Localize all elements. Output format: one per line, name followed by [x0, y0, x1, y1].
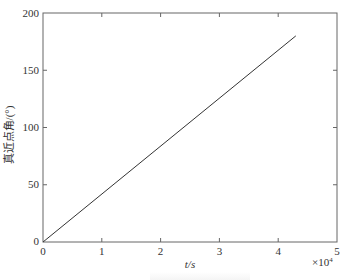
x-tick-label: 3	[217, 245, 223, 257]
figure-caption-cropped	[150, 272, 250, 280]
x-tick-label: 1	[99, 245, 105, 257]
y-tick-label: 0	[34, 235, 40, 247]
chart: 0 1 2 3 4 5 0 50 100 150 200 ×104 t/s 真近…	[0, 0, 345, 280]
x-tick-label: 2	[158, 245, 164, 257]
y-tick-label: 50	[28, 178, 40, 190]
y-tick-label: 150	[23, 64, 40, 76]
x-multiplier: ×104	[312, 256, 333, 268]
y-axis-label: 真近点角/(°)	[2, 105, 16, 164]
data-line	[43, 36, 296, 242]
x-tick-label: 5	[334, 245, 340, 257]
y-ticks	[43, 70, 337, 185]
x-ticks	[102, 13, 278, 242]
plot-frame	[43, 13, 337, 242]
y-tick-label: 100	[23, 121, 40, 133]
x-axis-label: t/s	[185, 258, 195, 270]
x-tick-label: 4	[275, 245, 281, 257]
y-tick-label: 200	[23, 7, 40, 19]
x-tick-label: 0	[40, 245, 46, 257]
